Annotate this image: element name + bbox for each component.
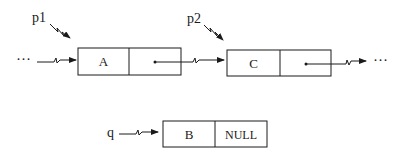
pointer-arrow-q bbox=[119, 130, 158, 135]
node-b: B NULL bbox=[163, 121, 267, 147]
node-c-data: C bbox=[249, 56, 258, 71]
pointer-label-p2: p2 bbox=[187, 11, 201, 26]
node-b-next-null: NULL bbox=[225, 128, 257, 142]
ellipsis-right: ··· bbox=[373, 52, 388, 68]
ellipsis-left: ··· bbox=[16, 51, 31, 67]
pointer-arrow-p1 bbox=[50, 24, 70, 38]
next-arrow-c-to-rest bbox=[306, 60, 366, 65]
incoming-arrow bbox=[37, 58, 76, 63]
node-a-data: A bbox=[99, 54, 109, 69]
pointer-arrow-p2 bbox=[204, 25, 223, 40]
pointer-label-p1: p1 bbox=[32, 10, 46, 25]
pointer-label-q: q bbox=[107, 125, 114, 140]
node-b-data: B bbox=[185, 127, 194, 142]
linked-list-diagram: ··· p1 A p2 C ··· q B NULL bbox=[0, 0, 405, 155]
node-c: C bbox=[227, 50, 331, 76]
next-arrow-a-to-c bbox=[155, 58, 224, 63]
